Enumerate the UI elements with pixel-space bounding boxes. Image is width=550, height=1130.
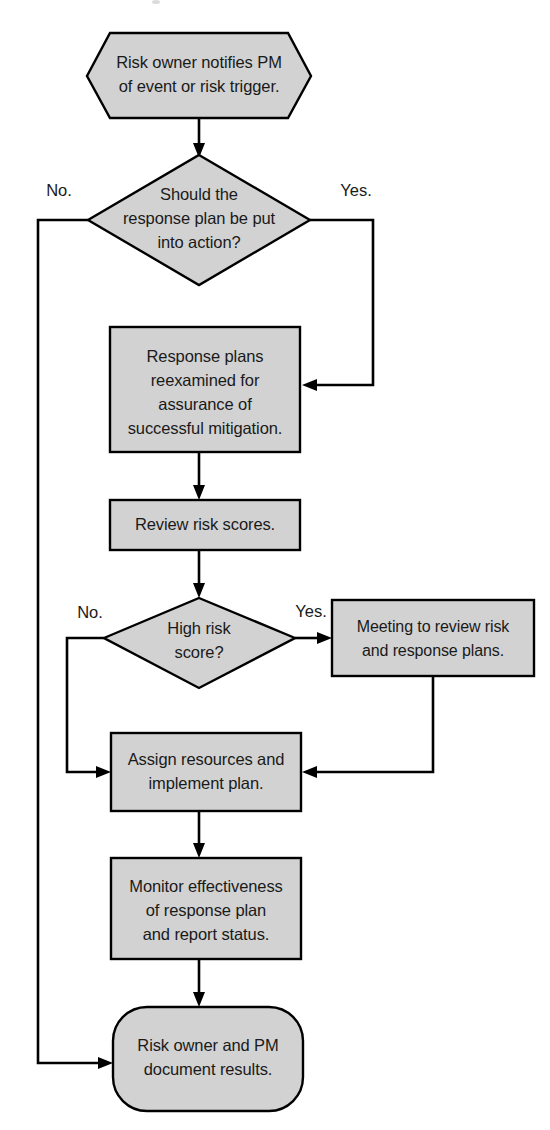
connector-decision2-no (67, 638, 111, 778)
hexagon-shape (87, 33, 311, 118)
arrowhead-icon (193, 843, 205, 858)
node-monitor-line-2: of response plan (146, 901, 266, 919)
node-monitor-line-3: and report status. (143, 925, 270, 943)
node-decision2-line-1: High risk (167, 619, 231, 637)
arrowhead-icon (193, 992, 205, 1007)
node-decision1-line-1: Should the (160, 185, 238, 203)
node-reexamined-line-1: Response plans (147, 347, 264, 365)
node-assign-resources[interactable]: Assign resources and implement plan. (111, 733, 301, 811)
arrowhead-icon (193, 485, 205, 500)
rect-shape (332, 600, 534, 676)
node-start-line-1: Risk owner notifies PM (116, 53, 282, 71)
edge-label-decision2-no: No. (77, 603, 103, 621)
node-start-line-2: of event or risk trigger. (119, 77, 280, 95)
connector-review-to-decision2 (193, 550, 205, 598)
connector-reexamined-to-review (193, 452, 205, 500)
rounded-rect-shape (113, 1007, 303, 1111)
node-document-results[interactable]: Risk owner and PM document results. (113, 1007, 303, 1111)
rect-shape (111, 733, 301, 811)
node-decision2-line-2: score? (175, 643, 224, 661)
connector-decision2-yes (295, 632, 332, 644)
node-assign-line-2: implement plan. (149, 774, 264, 792)
flowchart-svg: Risk owner notifies PM of event or risk … (0, 0, 550, 1130)
node-decision1-line-2: response plan be put (123, 209, 276, 227)
arrowhead-icon (302, 766, 317, 778)
node-monitor-effectiveness[interactable]: Monitor effectiveness of response plan a… (111, 858, 301, 959)
node-decision-high-risk[interactable]: High risk score? (104, 598, 295, 688)
arrowhead-icon (193, 583, 205, 598)
node-decision-response-plan[interactable]: Should the response plan be put into act… (88, 155, 310, 285)
scan-artifact (152, 0, 160, 4)
edge-label-decision1-yes: Yes. (340, 181, 372, 199)
node-meeting-review[interactable]: Meeting to review risk and response plan… (332, 600, 534, 676)
connector-start-to-decision1 (193, 118, 205, 158)
node-reexamined-line-3: assurance of (158, 395, 252, 413)
node-meeting-line-1: Meeting to review risk (357, 618, 511, 635)
arrowhead-icon (302, 379, 317, 391)
arrowhead-icon (98, 1057, 113, 1069)
connector-meeting-to-assign (302, 676, 433, 778)
node-reexamined-line-2: reexamined for (151, 371, 260, 389)
node-document-line-1: Risk owner and PM (137, 1036, 278, 1054)
flowchart-canvas: Risk owner notifies PM of event or risk … (0, 0, 550, 1130)
arrowhead-icon (317, 632, 332, 644)
connector-decision1-no (38, 220, 113, 1069)
edge-label-decision2-yes: Yes. (295, 602, 327, 620)
node-response-plans-reexamined[interactable]: Response plans reexamined for assurance … (110, 327, 300, 452)
connector-decision1-yes (302, 220, 373, 391)
node-meeting-line-2: and response plans. (362, 642, 504, 659)
node-review-line-1: Review risk scores. (135, 515, 275, 533)
connector-monitor-to-document (193, 959, 205, 1007)
node-decision1-line-3: into action? (157, 233, 240, 251)
node-assign-line-1: Assign resources and (128, 750, 285, 768)
edge-label-decision1-no: No. (46, 181, 72, 199)
connector-assign-to-monitor (193, 811, 205, 858)
node-monitor-line-1: Monitor effectiveness (129, 877, 283, 895)
node-reexamined-line-4: successful mitigation. (128, 419, 283, 437)
node-review-risk-scores[interactable]: Review risk scores. (110, 500, 300, 550)
node-document-line-2: document results. (144, 1060, 273, 1078)
node-start[interactable]: Risk owner notifies PM of event or risk … (87, 33, 311, 118)
arrowhead-icon (96, 766, 111, 778)
